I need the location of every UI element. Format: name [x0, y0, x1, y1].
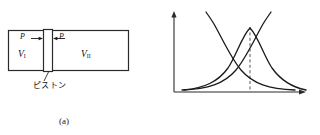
piston-leader-line: [44, 71, 49, 81]
figure-container: P P VI VII ピストン (a): [0, 0, 320, 135]
piston-text-label: ピストン: [33, 82, 66, 90]
curve-omega-product: [184, 28, 306, 90]
pressure-label-left: P: [20, 33, 25, 41]
caption-a: (a): [59, 116, 69, 126]
piston-slab: [44, 30, 53, 72]
cylinder-outline: [9, 31, 129, 71]
curve-omega-two: [182, 12, 271, 90]
x-axis: [174, 89, 306, 94]
panel-a-piston-diagram: P P VI VII ピストン (a): [0, 0, 160, 135]
omega-plot-svg: [160, 0, 320, 135]
volume-label-right: VII: [81, 50, 91, 60]
volume-label-left: VI: [18, 50, 26, 60]
piston-diagram-svg: [0, 0, 160, 135]
y-axis: [171, 11, 176, 92]
panel-b-omega-plot: Ω ΩII ΩI VI* VI (b): [160, 0, 320, 135]
pressure-label-right: P: [59, 33, 64, 41]
volume-right-subscript: II: [87, 53, 91, 59]
volume-left-subscript: I: [24, 53, 26, 59]
